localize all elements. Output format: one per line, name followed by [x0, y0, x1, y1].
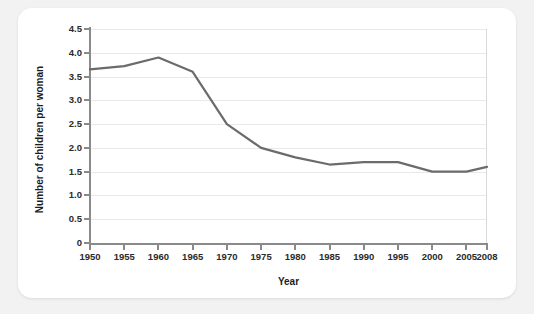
- chart-page: 00.51.01.52.02.53.03.54.04.5 19501955196…: [0, 0, 534, 314]
- x-axis-title: Year: [89, 276, 488, 287]
- y-axis-title: Number of children per woman: [30, 50, 48, 230]
- y-axis-title-text: Number of children per woman: [34, 50, 45, 230]
- series-line-layer: [0, 0, 534, 314]
- series-line: [90, 58, 487, 172]
